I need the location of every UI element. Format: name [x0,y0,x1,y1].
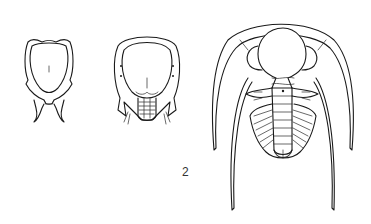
specimen-stage-1 [25,40,73,122]
trilobite-figure [0,0,371,224]
figure-label: 2 [182,165,189,179]
specimen-stage-3 [213,24,354,210]
specimen-stage-2 [114,37,179,124]
